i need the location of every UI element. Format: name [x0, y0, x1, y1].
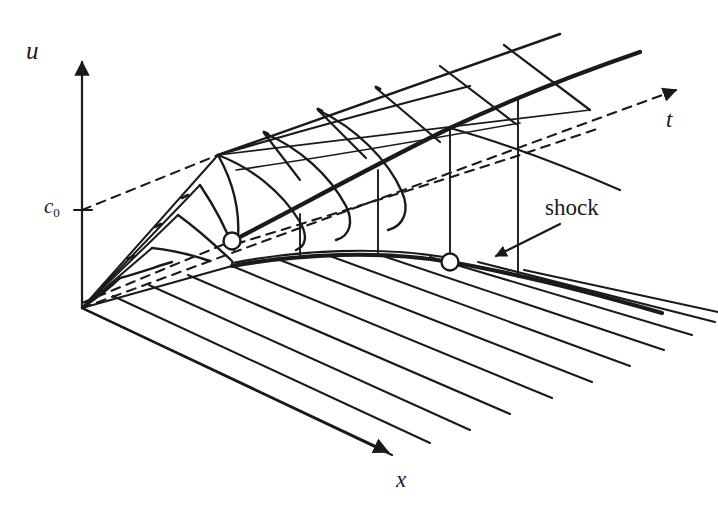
sonic-line-c0 — [82, 155, 218, 210]
shock-onset-point — [224, 233, 241, 250]
t-axis-label: t — [666, 108, 672, 131]
crest-ridge-ticks — [264, 87, 380, 134]
shock-formation-figure: u c0 t x shock — [0, 0, 718, 523]
shock-annotation-label: shock — [545, 196, 599, 219]
x-axis-label: x — [396, 468, 406, 491]
base-plane-characteristics — [82, 255, 718, 455]
post-shock-surface — [450, 128, 620, 190]
x-axis — [82, 308, 388, 452]
shock-annotation-arrow — [496, 224, 560, 256]
shock-point-2 — [442, 254, 459, 271]
crest-ridge-secondary — [218, 86, 470, 155]
u-axis-label: u — [26, 38, 39, 63]
c0-base: c — [44, 194, 53, 218]
c0-subscript: 0 — [53, 205, 60, 220]
u-axis — [74, 62, 92, 308]
diagram-canvas — [0, 0, 718, 523]
upper-sheet-rulings — [264, 45, 590, 180]
c0-axis-label: c0 — [44, 196, 60, 219]
crest-ridge — [218, 34, 560, 155]
